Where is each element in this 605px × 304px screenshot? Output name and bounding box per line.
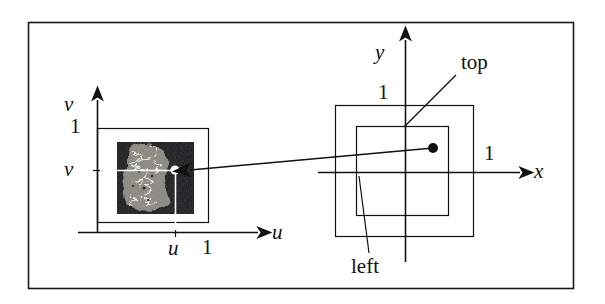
label-top: top	[461, 52, 488, 73]
lookup-arrow	[190, 148, 433, 170]
u-tick-value-label: u	[168, 238, 179, 259]
left-leader-line	[359, 176, 369, 253]
axis-label-v: v	[64, 94, 73, 115]
y-tick-one-label: 1	[378, 82, 389, 103]
pixel-point	[428, 143, 438, 153]
inner-square	[357, 127, 449, 216]
uv-sample-point	[170, 165, 179, 174]
figure-vector-layer	[0, 0, 605, 304]
top-leader-line	[404, 75, 456, 127]
texture-image	[117, 142, 194, 214]
axis-label-x: x	[534, 161, 543, 182]
x-tick-one-label: 1	[484, 143, 495, 164]
v-tick-value-label: v	[64, 159, 73, 180]
texture-mapping-figure: v 1 v u 1 u y 1 1 x top left	[0, 0, 605, 304]
axis-label-u: u	[272, 222, 283, 243]
v-tick-one-label: 1	[70, 116, 81, 137]
u-tick-one-label: 1	[202, 237, 213, 258]
axis-label-y: y	[375, 42, 384, 63]
label-left: left	[351, 256, 379, 277]
